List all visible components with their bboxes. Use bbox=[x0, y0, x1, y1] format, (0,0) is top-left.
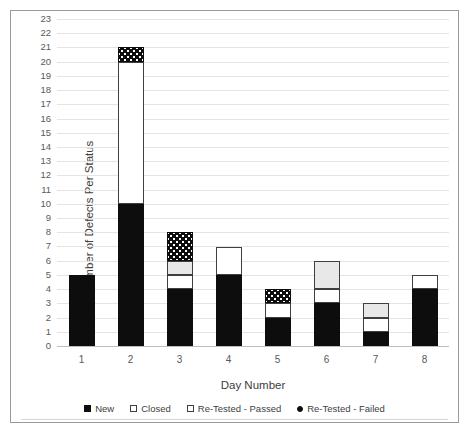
bar-segment-new[interactable] bbox=[216, 275, 242, 346]
gridline-8: 8 bbox=[57, 232, 449, 233]
legend-swatch-closed-icon bbox=[130, 405, 137, 412]
legend-item-new[interactable]: New bbox=[84, 403, 114, 414]
y-tick-label-3: 3 bbox=[46, 299, 51, 309]
y-tick-label-19: 19 bbox=[40, 71, 51, 81]
legend-swatch-failed-icon bbox=[297, 406, 303, 412]
plot-area: 01234567891011121314151617181920212223 1… bbox=[57, 19, 449, 346]
y-tick-label-6: 6 bbox=[46, 256, 51, 266]
y-tick-label-18: 18 bbox=[40, 85, 51, 95]
gridline-13: 13 bbox=[57, 161, 449, 162]
y-tick-label-9: 9 bbox=[46, 213, 51, 223]
gridline-16: 16 bbox=[57, 119, 449, 120]
y-tick-label-20: 20 bbox=[40, 57, 51, 67]
plot-wrapper: 01234567891011121314151617181920212223 1… bbox=[11, 11, 458, 422]
bar-segment-re-tested-passed[interactable] bbox=[363, 303, 389, 317]
y-tick-label-1: 1 bbox=[46, 327, 51, 337]
gridline-19: 19 bbox=[57, 76, 449, 77]
y-tick-label-14: 14 bbox=[40, 142, 51, 152]
gridline-11: 11 bbox=[57, 190, 449, 191]
legend-label: Re-Tested - Failed bbox=[307, 403, 385, 414]
bar-day-8[interactable] bbox=[412, 19, 438, 346]
bar-day-5[interactable] bbox=[265, 19, 291, 346]
bar-segment-new[interactable] bbox=[363, 332, 389, 346]
bar-segment-new[interactable] bbox=[118, 204, 144, 346]
x-tick-label-6: 6 bbox=[307, 355, 347, 365]
x-tick-label-7: 7 bbox=[356, 355, 396, 365]
legend-item-closed[interactable]: Closed bbox=[130, 403, 171, 414]
gridline-0: 0 bbox=[57, 346, 449, 347]
gridline-20: 20 bbox=[57, 62, 449, 63]
y-tick-label-12: 12 bbox=[40, 171, 51, 181]
gridline-7: 7 bbox=[57, 246, 449, 247]
gridline-21: 21 bbox=[57, 47, 449, 48]
chart-frame: Number of Defects Per Status 01234567891… bbox=[10, 10, 459, 423]
bar-segment-new[interactable] bbox=[265, 318, 291, 346]
gridline-2: 2 bbox=[57, 318, 449, 319]
bar-segment-new[interactable] bbox=[314, 303, 340, 346]
y-tick-label-22: 22 bbox=[40, 28, 51, 38]
legend-swatch-passed-icon bbox=[187, 405, 194, 412]
y-tick-label-4: 4 bbox=[46, 284, 51, 294]
bar-segment-new[interactable] bbox=[69, 275, 95, 346]
y-tick-label-10: 10 bbox=[40, 199, 51, 209]
bar-day-4[interactable] bbox=[216, 19, 242, 346]
y-tick-label-0: 0 bbox=[46, 341, 51, 351]
y-tick-label-11: 11 bbox=[41, 185, 51, 195]
x-tick-label-3: 3 bbox=[160, 355, 200, 365]
x-tick-label-8: 8 bbox=[405, 355, 445, 365]
y-tick-label-7: 7 bbox=[46, 242, 51, 252]
bar-segment-re-tested-passed[interactable] bbox=[314, 261, 340, 289]
bar-segment-closed[interactable] bbox=[167, 275, 193, 289]
y-tick-label-21: 21 bbox=[40, 43, 51, 53]
y-tick-label-16: 16 bbox=[40, 114, 51, 124]
bar-day-3[interactable] bbox=[167, 19, 193, 346]
gridline-6: 6 bbox=[57, 261, 449, 262]
gridline-17: 17 bbox=[57, 104, 449, 105]
legend-label: Re-Tested - Passed bbox=[198, 403, 281, 414]
bar-segment-closed[interactable] bbox=[363, 318, 389, 332]
x-tick-label-1: 1 bbox=[62, 355, 102, 365]
bar-segment-re-tested-failed[interactable] bbox=[265, 289, 291, 303]
bar-segment-closed[interactable] bbox=[412, 275, 438, 289]
y-tick-label-13: 13 bbox=[40, 156, 51, 166]
gridline-1: 1 bbox=[57, 332, 449, 333]
gridline-10: 10 bbox=[57, 204, 449, 205]
x-tick-label-4: 4 bbox=[209, 355, 249, 365]
bar-segment-closed[interactable] bbox=[314, 289, 340, 303]
y-tick-label-15: 15 bbox=[40, 128, 51, 138]
x-tick-label-5: 5 bbox=[258, 355, 298, 365]
gridline-14: 14 bbox=[57, 147, 449, 148]
gridline-4: 4 bbox=[57, 289, 449, 290]
y-tick-label-23: 23 bbox=[40, 14, 51, 24]
gridline-23: 23 bbox=[57, 19, 449, 20]
bar-day-2[interactable] bbox=[118, 19, 144, 346]
legend-item-re-tested-passed[interactable]: Re-Tested - Passed bbox=[187, 403, 281, 414]
gridline-9: 9 bbox=[57, 218, 449, 219]
y-tick-label-17: 17 bbox=[40, 100, 51, 110]
gridline-15: 15 bbox=[57, 133, 449, 134]
bar-day-6[interactable] bbox=[314, 19, 340, 346]
bar-segment-new[interactable] bbox=[412, 289, 438, 346]
gridline-3: 3 bbox=[57, 303, 449, 304]
y-tick-label-8: 8 bbox=[46, 228, 51, 238]
bar-segment-closed[interactable] bbox=[265, 303, 291, 317]
bar-segment-closed[interactable] bbox=[216, 247, 242, 275]
y-tick-label-5: 5 bbox=[46, 270, 51, 280]
legend-swatch-new-icon bbox=[84, 405, 91, 412]
gridline-5: 5 bbox=[57, 275, 449, 276]
bar-day-1[interactable] bbox=[69, 19, 95, 346]
gridline-22: 22 bbox=[57, 33, 449, 34]
bar-segment-re-tested-failed[interactable] bbox=[167, 232, 193, 260]
chart-legend: NewClosedRe-Tested - PassedRe-Tested - F… bbox=[11, 403, 458, 414]
x-tick-label-2: 2 bbox=[111, 355, 151, 365]
bar-segment-re-tested-passed[interactable] bbox=[167, 261, 193, 275]
bar-day-7[interactable] bbox=[363, 19, 389, 346]
legend-label: Closed bbox=[141, 403, 171, 414]
gridline-18: 18 bbox=[57, 90, 449, 91]
bar-segment-re-tested-failed[interactable] bbox=[118, 47, 144, 61]
bar-segment-new[interactable] bbox=[167, 289, 193, 346]
gridline-12: 12 bbox=[57, 175, 449, 176]
bar-segment-closed[interactable] bbox=[118, 62, 144, 204]
legend-divider bbox=[21, 419, 448, 420]
legend-item-re-tested-failed[interactable]: Re-Tested - Failed bbox=[297, 403, 385, 414]
